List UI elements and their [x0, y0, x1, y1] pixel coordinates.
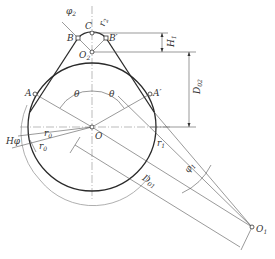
label-h1: H1	[166, 35, 177, 48]
d01-ext-o	[70, 137, 80, 153]
label-o1: O1	[256, 224, 267, 235]
o-to-o1-line	[92, 127, 252, 227]
point-o1	[250, 225, 254, 229]
right-flank-line	[106, 38, 154, 112]
label-aprime: A′	[152, 88, 162, 98]
left-flank-line	[30, 38, 78, 112]
r1-line	[118, 96, 252, 227]
label-o2: O2	[79, 50, 90, 61]
label-r0-upper: r0	[44, 128, 52, 139]
label-theta-left: θ	[74, 89, 80, 99]
label-bprime: B′	[108, 33, 118, 43]
label-phi2: φ2	[66, 6, 76, 17]
label-hphi: Hφ	[5, 136, 21, 146]
label-r2: r2	[97, 17, 110, 28]
d01-ext-o1	[241, 227, 252, 250]
label-a: A	[24, 88, 32, 98]
label-d01: D01	[139, 172, 158, 190]
label-d02: D02	[192, 79, 203, 95]
point-c	[90, 31, 94, 35]
theta-right-arc	[92, 91, 124, 108]
point-aprime	[148, 92, 152, 96]
flank-to-o1-line	[154, 112, 252, 227]
label-r1: r1	[157, 138, 165, 149]
label-b: B	[66, 33, 74, 43]
point-a	[33, 92, 37, 96]
o-to-a-line	[35, 94, 92, 127]
label-c: C	[85, 21, 92, 31]
label-phi1: φ1	[182, 160, 197, 175]
label-r0-lower: r0	[39, 141, 47, 152]
label-o: O	[95, 131, 103, 141]
point-b	[76, 36, 80, 40]
hphi-line-upper	[18, 127, 92, 136]
d01-line	[75, 145, 240, 247]
label-theta-right: θ	[109, 89, 115, 99]
cam-profile-diagram: O O2 C B B′ A A′ O1 r2 φ2 θ θ H1 D02 Hφ …	[0, 0, 275, 259]
point-bprime	[104, 36, 108, 40]
point-o	[90, 125, 94, 129]
point-o2	[90, 50, 94, 54]
